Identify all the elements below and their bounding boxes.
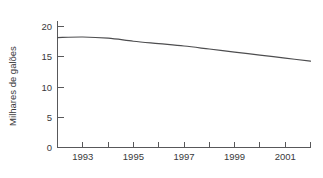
- y-tick-labels: 0 5 10 15 20: [41, 21, 52, 153]
- y-tick-label-20: 20: [41, 21, 52, 32]
- axes-group: [58, 21, 311, 148]
- x-tick-label-1999: 1999: [224, 151, 245, 162]
- x-tick-label-2001: 2001: [275, 151, 296, 162]
- y-tick-marks: [58, 27, 64, 148]
- x-tick-label-1995: 1995: [123, 151, 144, 162]
- y-tick-label-10: 10: [41, 82, 52, 93]
- y-tick-label-0: 0: [47, 142, 52, 153]
- y-axis-label: Milhares de galões: [7, 46, 18, 126]
- x-tick-label-1993: 1993: [72, 151, 93, 162]
- line-chart: 0 5 10 15 20 1993 1995 1997 1999 2001 Mi…: [0, 0, 323, 178]
- x-tick-marks: [58, 142, 311, 148]
- y-tick-label-15: 15: [41, 51, 52, 62]
- y-tick-label-5: 5: [47, 112, 52, 123]
- x-tick-labels: 1993 1995 1997 1999 2001: [72, 151, 296, 162]
- chart-canvas: 0 5 10 15 20 1993 1995 1997 1999 2001 Mi…: [0, 0, 323, 178]
- data-series-line: [58, 37, 311, 61]
- x-tick-label-1997: 1997: [173, 151, 194, 162]
